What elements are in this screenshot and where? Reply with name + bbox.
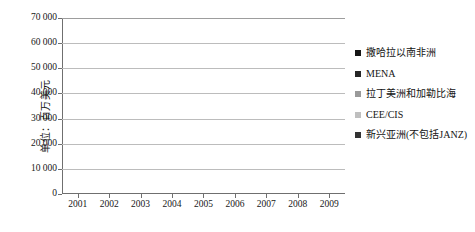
x-tick-mark [298, 194, 299, 198]
legend-swatch-icon [355, 132, 361, 138]
legend-label: 拉丁美洲和加勒比海 [366, 89, 456, 100]
bar-slot-2008: 2008 [282, 18, 313, 194]
plot-area: 70 00060 00050 00040 00030 00020 00010 0… [62, 18, 345, 194]
chart-figure: 单位：百万美元 70 00060 00050 00040 00030 00020… [0, 0, 475, 232]
bar-slot-2001: 2001 [62, 18, 93, 194]
legend-label: MENA [366, 69, 395, 80]
x-tick-label: 2009 [320, 199, 339, 209]
bar-series-group: 200120022003200420052006200720082009 [62, 18, 345, 194]
x-tick-label: 2001 [68, 199, 87, 209]
y-tick-label: 0 [52, 189, 57, 199]
y-tick-label: 20 000 [31, 139, 57, 149]
bar-slot-2002: 2002 [93, 18, 124, 194]
legend-item[interactable]: 新兴亚洲(不包括JANZ) [355, 130, 473, 141]
chart-legend: 撒哈拉以南非洲MENA拉丁美洲和加勒比海CEE/CIS新兴亚洲(不包括JANZ) [355, 48, 473, 151]
legend-label: 新兴亚洲(不包括JANZ) [366, 130, 467, 141]
legend-item[interactable]: CEE/CIS [355, 110, 473, 121]
x-tick-label: 2008 [288, 199, 307, 209]
x-tick-mark [109, 194, 110, 198]
legend-item[interactable]: 撒哈拉以南非洲 [355, 48, 473, 59]
x-tick-mark [266, 194, 267, 198]
legend-swatch-icon [355, 71, 361, 77]
x-tick-mark [203, 194, 204, 198]
y-tick-label: 70 000 [31, 13, 57, 23]
y-tick-label: 60 000 [31, 38, 57, 48]
x-tick-label: 2007 [257, 199, 276, 209]
legend-item[interactable]: 拉丁美洲和加勒比海 [355, 89, 473, 100]
x-tick-label: 2004 [163, 199, 182, 209]
bar-slot-2007: 2007 [251, 18, 282, 194]
bar-slot-2003: 2003 [125, 18, 156, 194]
x-tick-mark [235, 194, 236, 198]
y-tick-mark [58, 194, 62, 195]
x-tick-label: 2003 [131, 199, 150, 209]
x-tick-mark [329, 194, 330, 198]
x-tick-mark [78, 194, 79, 198]
x-tick-label: 2002 [100, 199, 119, 209]
bar-slot-2006: 2006 [219, 18, 250, 194]
legend-item[interactable]: MENA [355, 69, 473, 80]
x-tick-label: 2005 [194, 199, 213, 209]
legend-swatch-icon [355, 91, 361, 97]
y-tick-label: 40 000 [31, 89, 57, 99]
y-tick-label: 10 000 [31, 164, 57, 174]
y-tick-label: 50 000 [31, 64, 57, 74]
x-tick-label: 2006 [225, 199, 244, 209]
legend-label: 撒哈拉以南非洲 [366, 48, 436, 59]
y-tick-label: 30 000 [31, 114, 57, 124]
bar-slot-2004: 2004 [156, 18, 187, 194]
bar-slot-2005: 2005 [188, 18, 219, 194]
x-tick-mark [172, 194, 173, 198]
legend-label: CEE/CIS [366, 110, 403, 121]
bar-slot-2009: 2009 [314, 18, 345, 194]
legend-swatch-icon [355, 112, 361, 118]
x-tick-mark [141, 194, 142, 198]
legend-swatch-icon [355, 50, 361, 56]
